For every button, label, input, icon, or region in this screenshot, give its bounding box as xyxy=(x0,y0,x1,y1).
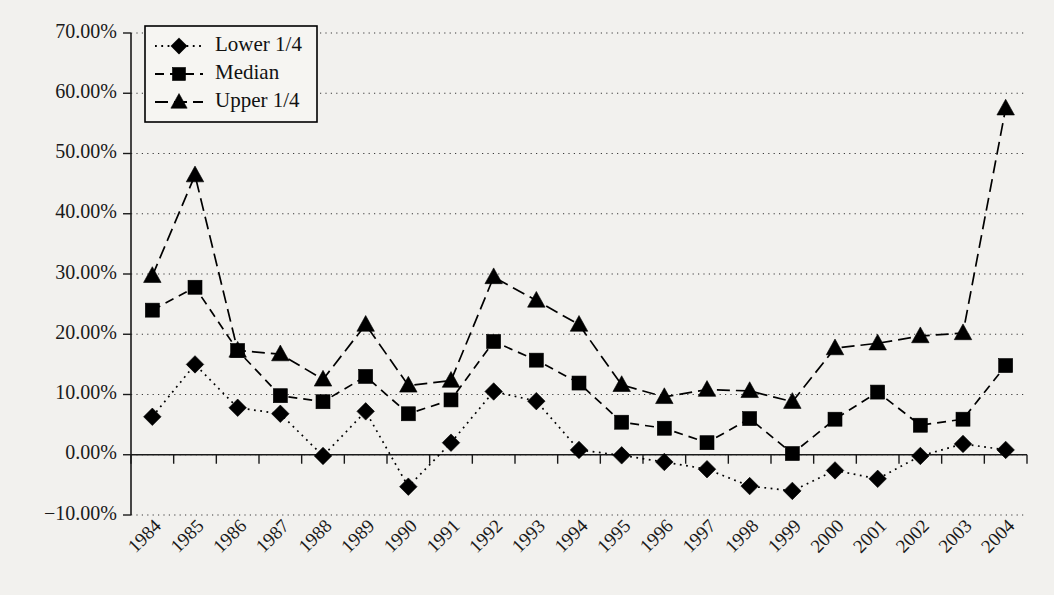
marker-square xyxy=(999,359,1013,373)
marker-square xyxy=(743,412,757,426)
marker-square xyxy=(572,376,586,390)
marker-square xyxy=(700,436,714,450)
y-tick-label: 20.00% xyxy=(55,321,117,343)
marker-square xyxy=(529,353,543,367)
marker-square xyxy=(359,369,373,383)
chart-legend: Lower 1/4MedianUpper 1/4 xyxy=(145,26,317,122)
marker-square xyxy=(657,421,671,435)
y-tick-label: −10.00% xyxy=(44,502,117,524)
marker-square xyxy=(785,447,799,461)
marker-square xyxy=(401,407,415,421)
marker-square xyxy=(173,68,186,81)
marker-square xyxy=(188,280,202,294)
marker-square xyxy=(273,389,287,403)
y-tick-label: 70.00% xyxy=(55,20,117,42)
legend-label: Median xyxy=(215,60,280,84)
y-tick-label: 0.00% xyxy=(65,441,117,463)
legend-label: Lower 1/4 xyxy=(215,32,302,56)
legend-label: Upper 1/4 xyxy=(215,88,300,112)
y-tick-label: 60.00% xyxy=(55,80,117,102)
y-tick-label: 40.00% xyxy=(55,200,117,222)
marker-square xyxy=(316,395,330,409)
chart-container: −10.00%0.00%10.00%20.00%30.00%40.00%50.0… xyxy=(0,0,1054,595)
marker-square xyxy=(145,303,159,317)
marker-square xyxy=(828,412,842,426)
marker-square xyxy=(913,418,927,432)
quartile-line-chart: −10.00%0.00%10.00%20.00%30.00%40.00%50.0… xyxy=(0,0,1054,595)
marker-square xyxy=(615,415,629,429)
marker-square xyxy=(487,334,501,348)
marker-square xyxy=(956,412,970,426)
marker-square xyxy=(444,393,458,407)
y-tick-label: 30.00% xyxy=(55,261,117,283)
marker-square xyxy=(871,385,885,399)
y-tick-label: 50.00% xyxy=(55,140,117,162)
y-tick-label: 10.00% xyxy=(55,381,117,403)
